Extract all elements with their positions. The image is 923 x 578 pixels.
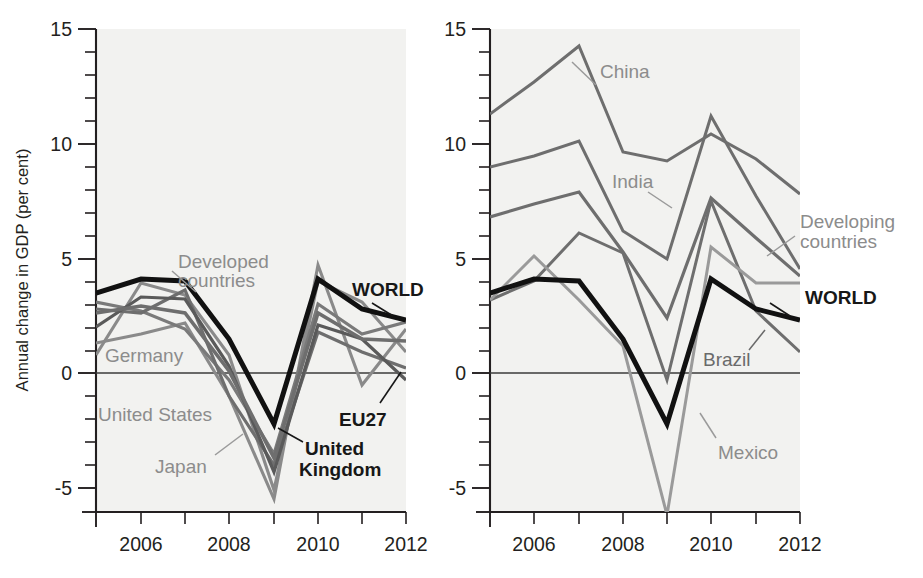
- right-xtick-2012: 2012: [778, 533, 821, 555]
- label-eu27: EU27: [339, 409, 387, 430]
- label-japan: Japan: [155, 456, 207, 477]
- label-united-kingdom-line2: Kingdom: [299, 459, 381, 480]
- right-xtick-2006: 2006: [512, 533, 555, 555]
- label-brazil: Brazil: [703, 349, 751, 370]
- label-world-left: WORLD: [352, 279, 424, 300]
- right-xtick-2008: 2008: [601, 533, 644, 555]
- label-developed-countries-line2: countries: [178, 270, 255, 291]
- right-ytick-5: 5: [455, 248, 466, 270]
- left-xtick-2010: 2010: [296, 533, 340, 555]
- label-mexico: Mexico: [718, 442, 778, 463]
- gdp-growth-figure: Annual change in GDP (per cent): [0, 0, 923, 578]
- figure-svg: Annual change in GDP (per cent): [0, 0, 923, 578]
- left-ytick-15: 15: [50, 18, 72, 40]
- label-germany: Germany: [105, 345, 184, 366]
- y-axis-title: Annual change in GDP (per cent): [13, 149, 31, 392]
- right-plot-background: [490, 29, 800, 512]
- left-ytick-5: 5: [61, 248, 72, 270]
- left-panel: 15 10 5 0 -5 2006 2008 2010 2012: [50, 18, 427, 555]
- left-ytick-10: 10: [50, 133, 72, 155]
- label-world-right: WORLD: [805, 287, 877, 308]
- left-xtick-2008: 2008: [207, 533, 250, 555]
- label-developed-countries-line1: Developed: [178, 251, 269, 272]
- label-developing-countries-line2: countries: [800, 231, 877, 252]
- right-ytick-neg5: -5: [449, 477, 466, 499]
- label-china: China: [600, 61, 650, 82]
- right-ytick-10: 10: [444, 133, 466, 155]
- label-india: India: [612, 171, 654, 192]
- left-xtick-2012: 2012: [384, 533, 427, 555]
- label-developing-countries-line1: Developing: [800, 211, 895, 232]
- label-united-kingdom-line1: United: [305, 438, 364, 459]
- right-xtick-2010: 2010: [689, 533, 733, 555]
- label-united-states: United States: [98, 404, 212, 425]
- right-ytick-0: 0: [455, 362, 466, 384]
- left-xtick-2006: 2006: [119, 533, 162, 555]
- left-ytick-0: 0: [61, 362, 72, 384]
- right-ytick-15: 15: [444, 18, 466, 40]
- left-ytick-neg5: -5: [55, 477, 72, 499]
